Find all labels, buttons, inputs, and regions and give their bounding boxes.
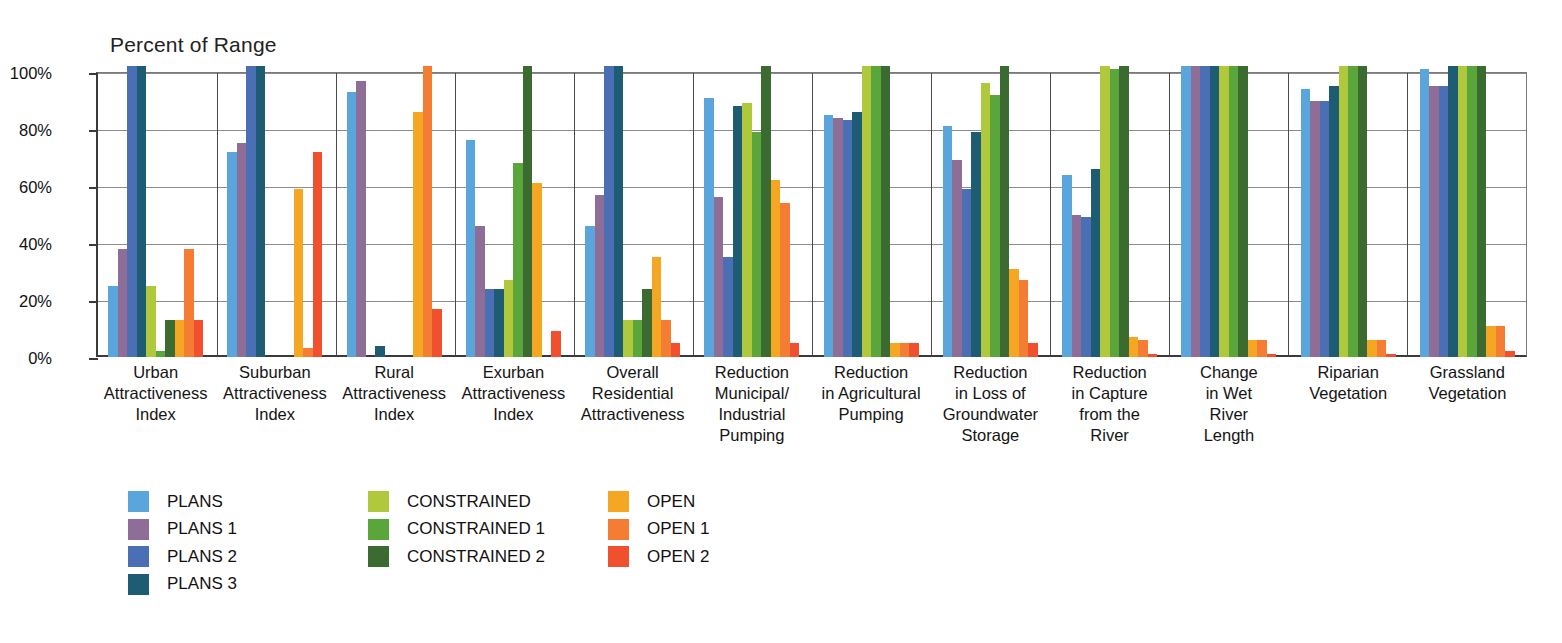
- legend-item[interactable]: CONSTRAINED: [368, 488, 608, 516]
- bar[interactable]: [1138, 340, 1148, 357]
- bar[interactable]: [943, 126, 953, 357]
- bar[interactable]: [1267, 354, 1277, 357]
- bar[interactable]: [175, 320, 185, 357]
- bar[interactable]: [1448, 66, 1458, 357]
- bar[interactable]: [900, 343, 910, 357]
- legend-item[interactable]: OPEN 2: [608, 543, 848, 571]
- bar[interactable]: [833, 118, 843, 357]
- bar[interactable]: [184, 249, 194, 357]
- bar[interactable]: [585, 226, 595, 357]
- bar[interactable]: [1477, 66, 1487, 357]
- bar[interactable]: [1062, 175, 1072, 357]
- bar[interactable]: [952, 160, 962, 357]
- bar[interactable]: [742, 103, 752, 357]
- bar[interactable]: [595, 195, 605, 357]
- bar[interactable]: [1358, 66, 1368, 357]
- bar[interactable]: [432, 309, 442, 357]
- bar[interactable]: [532, 183, 542, 357]
- bar[interactable]: [1248, 340, 1258, 357]
- bar[interactable]: [504, 280, 514, 357]
- bar[interactable]: [733, 106, 743, 357]
- bar[interactable]: [1191, 66, 1201, 357]
- bar[interactable]: [375, 346, 385, 357]
- bar[interactable]: [1238, 66, 1248, 357]
- legend-item[interactable]: OPEN 1: [608, 516, 848, 544]
- bar[interactable]: [871, 66, 881, 357]
- bar[interactable]: [347, 92, 357, 357]
- bar[interactable]: [862, 66, 872, 357]
- bar[interactable]: [909, 343, 919, 357]
- bar[interactable]: [1320, 101, 1330, 358]
- bar[interactable]: [990, 95, 1000, 357]
- bar[interactable]: [1229, 66, 1239, 357]
- bar[interactable]: [843, 120, 853, 357]
- bar[interactable]: [523, 66, 533, 357]
- bar[interactable]: [313, 152, 323, 357]
- bar[interactable]: [485, 289, 495, 357]
- bar[interactable]: [881, 66, 891, 357]
- bar[interactable]: [780, 203, 790, 357]
- bar[interactable]: [303, 348, 313, 357]
- legend-item[interactable]: PLANS 1: [128, 516, 368, 544]
- legend-item[interactable]: OPEN: [608, 488, 848, 516]
- bar[interactable]: [108, 286, 118, 357]
- bar[interactable]: [704, 98, 714, 357]
- bar[interactable]: [1072, 215, 1082, 358]
- bar[interactable]: [356, 81, 366, 357]
- bar[interactable]: [118, 249, 128, 357]
- bar[interactable]: [137, 66, 147, 357]
- bar[interactable]: [513, 163, 523, 357]
- bar[interactable]: [1496, 326, 1506, 357]
- bar[interactable]: [1219, 66, 1229, 357]
- bar[interactable]: [604, 66, 614, 357]
- bar[interactable]: [413, 112, 423, 357]
- bar[interactable]: [1181, 66, 1191, 357]
- bar[interactable]: [981, 83, 991, 357]
- bar[interactable]: [1348, 66, 1358, 357]
- bar[interactable]: [852, 112, 862, 357]
- bar[interactable]: [652, 257, 662, 357]
- bar[interactable]: [1257, 340, 1267, 357]
- bar[interactable]: [246, 66, 256, 357]
- bar[interactable]: [671, 343, 681, 357]
- bar[interactable]: [237, 143, 247, 357]
- bar[interactable]: [1467, 66, 1477, 357]
- bar[interactable]: [723, 257, 733, 357]
- bar[interactable]: [127, 66, 137, 357]
- bar[interactable]: [1429, 86, 1439, 357]
- bar[interactable]: [642, 289, 652, 357]
- bar[interactable]: [256, 66, 266, 357]
- bar[interactable]: [771, 180, 781, 357]
- bar[interactable]: [1129, 337, 1139, 357]
- bar[interactable]: [1019, 280, 1029, 357]
- legend-item[interactable]: PLANS: [128, 488, 368, 516]
- bar[interactable]: [1367, 340, 1377, 357]
- bar[interactable]: [466, 140, 476, 357]
- bar[interactable]: [475, 226, 485, 357]
- bar[interactable]: [1148, 354, 1158, 357]
- bar[interactable]: [1310, 101, 1320, 358]
- bar[interactable]: [1329, 86, 1339, 357]
- bar[interactable]: [165, 320, 175, 357]
- bar[interactable]: [1486, 326, 1496, 357]
- bar[interactable]: [890, 343, 900, 357]
- bar[interactable]: [1119, 66, 1129, 357]
- bar[interactable]: [752, 132, 762, 357]
- bar[interactable]: [790, 343, 800, 357]
- bar[interactable]: [1110, 69, 1120, 357]
- bar[interactable]: [227, 152, 237, 357]
- bar[interactable]: [633, 320, 643, 357]
- bar[interactable]: [1091, 169, 1101, 357]
- legend-item[interactable]: PLANS 3: [128, 571, 368, 599]
- bar[interactable]: [1439, 86, 1449, 357]
- bar[interactable]: [494, 289, 504, 357]
- bar[interactable]: [1081, 217, 1091, 357]
- bar[interactable]: [294, 189, 304, 357]
- bar[interactable]: [1339, 66, 1349, 357]
- bar[interactable]: [423, 66, 433, 357]
- bar[interactable]: [1000, 66, 1010, 357]
- bar[interactable]: [1100, 66, 1110, 357]
- bar[interactable]: [1458, 66, 1468, 357]
- bar[interactable]: [1210, 66, 1220, 357]
- legend-item[interactable]: CONSTRAINED 1: [368, 516, 608, 544]
